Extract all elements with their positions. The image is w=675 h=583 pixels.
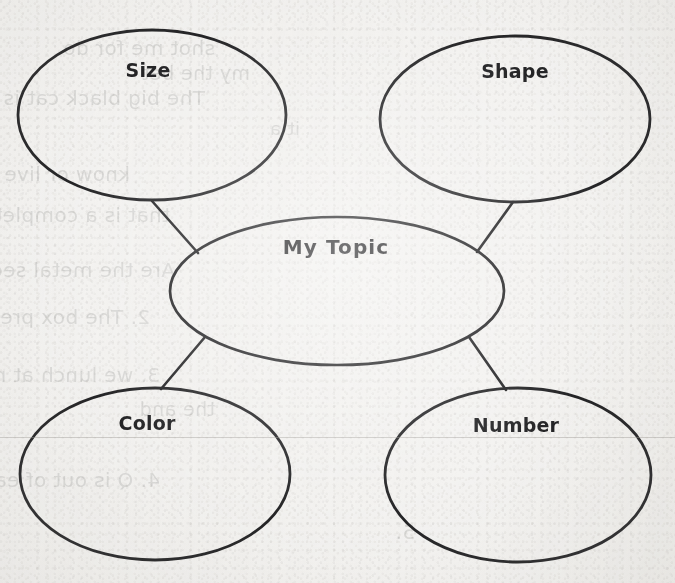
connector-shape-center	[477, 202, 513, 252]
connector-color-center	[161, 337, 205, 389]
bubble-shape[interactable]	[380, 36, 650, 202]
bubble-center[interactable]	[170, 217, 504, 365]
bubble-number[interactable]	[385, 388, 651, 562]
connector-group	[152, 201, 513, 390]
connector-size-center	[152, 201, 198, 253]
bubble-color[interactable]	[20, 388, 290, 560]
bubble-group	[18, 30, 651, 562]
concept-map-diagram	[0, 0, 675, 583]
connector-number-center	[469, 337, 506, 390]
bubble-size[interactable]	[18, 30, 286, 200]
worksheet-page: shot me for domy the betThe big black ca…	[0, 0, 675, 583]
